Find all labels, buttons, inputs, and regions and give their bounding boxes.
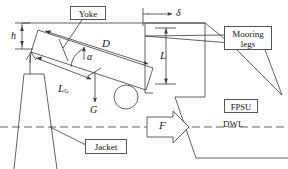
dim-h (15, 23, 33, 49)
dimension-label-delta: δ (176, 8, 181, 18)
LG-subscript: G (64, 88, 68, 94)
dimension-label-L: L (160, 50, 166, 61)
leader-yoke (63, 17, 84, 48)
roller-circle (114, 85, 138, 109)
mooring-legs-line1: Mooring (232, 29, 264, 39)
jacket-structure (14, 55, 57, 169)
dimension-label-D: D (102, 38, 110, 49)
leader-jacket (50, 127, 88, 146)
dimension-label-h: h (11, 31, 16, 41)
callout-box-yoke[interactable]: Yoke (70, 6, 106, 20)
callout-box-jacket[interactable]: Jacket (85, 139, 127, 154)
waterline-label-dwl: DWL (223, 120, 244, 129)
callout-box-fpsu[interactable]: FPSU (224, 99, 258, 113)
dimension-label-alpha: α (87, 52, 92, 62)
mooring-legs-line2: legs (241, 39, 256, 49)
yoke-pivot-joint (26, 52, 36, 63)
dimension-label-LG: LG (58, 83, 68, 94)
leader-mooring-legs-2 (264, 47, 282, 95)
dim-D (45, 30, 148, 64)
diagram-canvas: Yoke Mooring legs FPSU Jacket h δ D L α … (0, 0, 288, 169)
callout-box-mooring-legs[interactable]: Mooring legs (224, 26, 272, 50)
angle-alpha (71, 47, 84, 67)
leader-mooring-legs-1 (145, 35, 226, 36)
force-label-F: F (159, 120, 166, 131)
yoke-end-post (145, 23, 153, 93)
force-F-arrow (147, 111, 189, 143)
force-label-G: G (90, 105, 97, 115)
